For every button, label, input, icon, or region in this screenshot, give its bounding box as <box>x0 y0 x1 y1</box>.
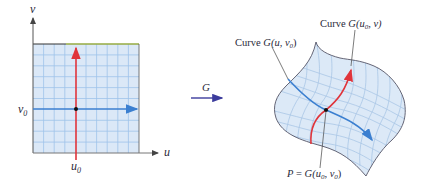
curve-u-label: Curve G(u, v0) <box>235 37 297 50</box>
leader-curve-u <box>272 47 288 79</box>
curve-v-label: Curve G(u0, v) <box>320 18 382 31</box>
v0-label: v0 <box>18 102 27 118</box>
u0-label: u0 <box>71 159 81 175</box>
mapping-G: G <box>191 81 222 98</box>
u-axis-label: u <box>164 145 170 159</box>
image-surface: Curve G(u, v0) Curve G(u0, v) P = G(u0, … <box>235 18 410 188</box>
parameter-domain: v u u0 v0 <box>18 2 170 175</box>
v-axis-label: v <box>30 2 36 16</box>
point-P-label: P = G(u0, v0) <box>286 168 342 181</box>
mapping-label: G <box>202 81 210 93</box>
point-u0-v0 <box>74 107 78 111</box>
diagram-canvas: v u u0 v0 G <box>0 0 427 188</box>
